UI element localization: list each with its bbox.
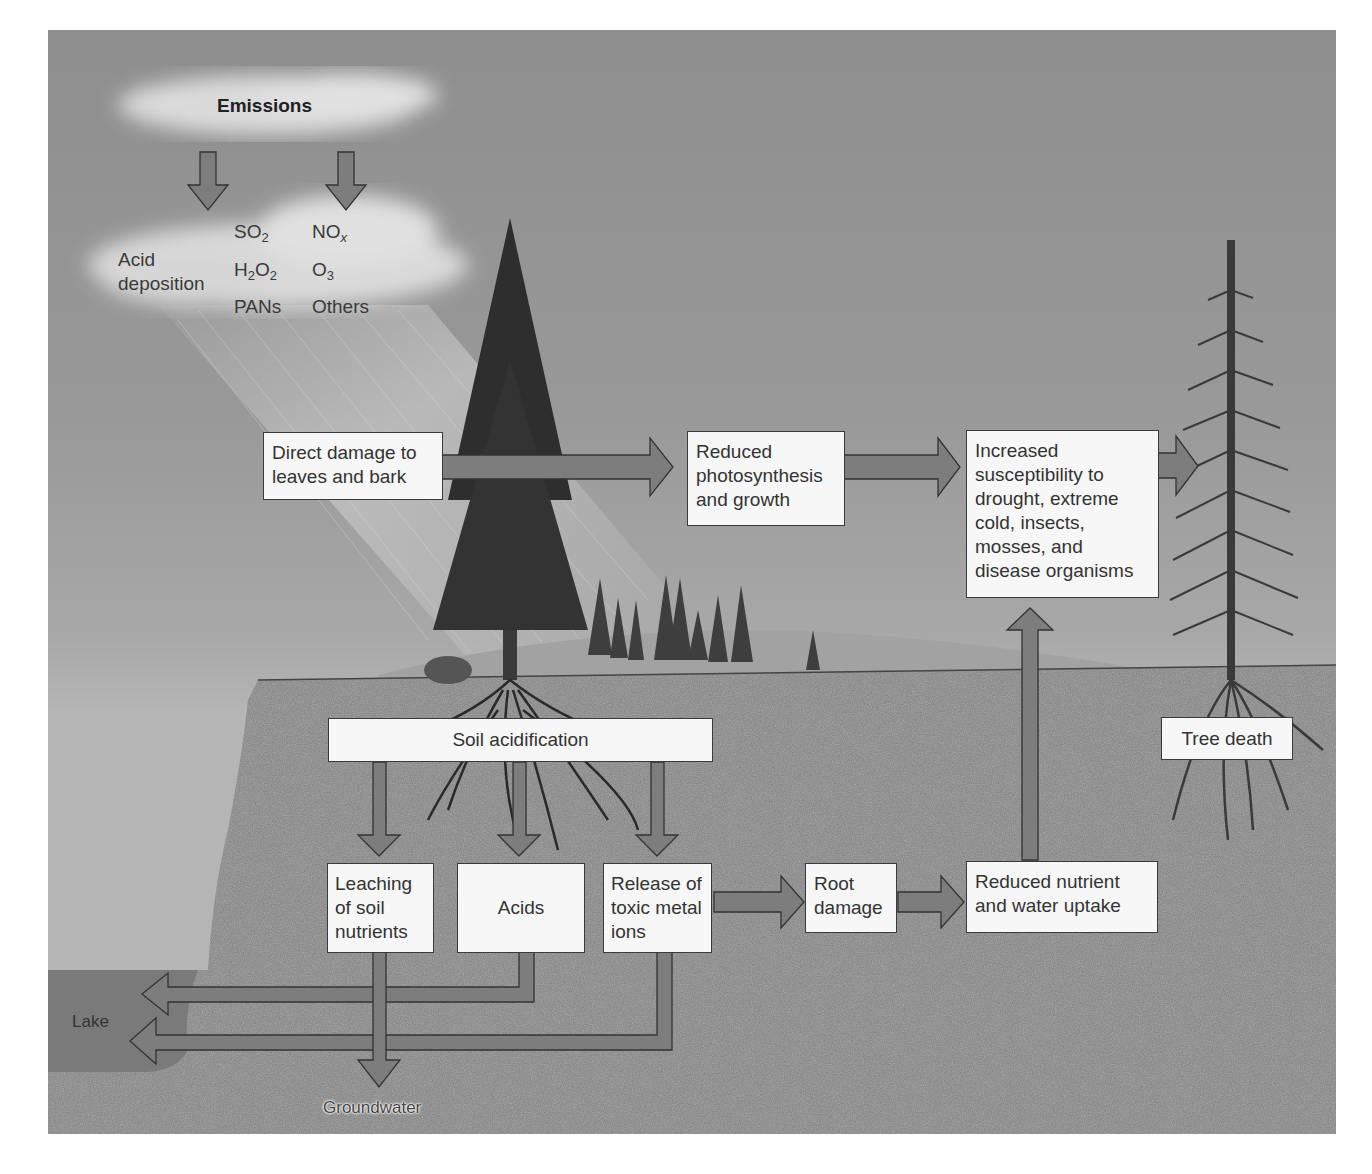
lake	[48, 970, 198, 1072]
groundwater-label: Groundwater	[323, 1096, 421, 1120]
arrow-photosynthesis-to-susceptibility	[844, 438, 960, 496]
acid-deposition-diagram: Emissions Acid deposition SO2 NOx H2O2 O…	[48, 30, 1336, 1134]
emissions-label: Emissions	[217, 94, 312, 118]
box-reduced-photosynthesis: Reduced photosynthesis and growth	[687, 431, 845, 526]
box-leaching: Leaching of soil nutrients	[327, 863, 434, 953]
box-increased-susceptibility: Increased susceptibility to drought, ext…	[966, 430, 1159, 598]
pollutant-o3: O3	[312, 258, 334, 288]
pollutant-others: Others	[312, 295, 369, 319]
lake-label: Lake	[72, 1010, 109, 1034]
box-soil-acidification: Soil acidification	[328, 718, 713, 762]
box-acids: Acids	[457, 863, 585, 953]
pollutant-pans: PANs	[234, 295, 281, 319]
pollutant-h2o2: H2O2	[234, 258, 277, 288]
box-root-damage: Root damage	[805, 863, 897, 933]
arrow-susceptibility-to-death	[1158, 436, 1198, 495]
pollutant-so2: SO2	[234, 220, 269, 250]
arrow-emissions-left	[188, 152, 228, 210]
pollutant-nox: NOx	[312, 220, 347, 250]
box-reduced-uptake: Reduced nutrient and water uptake	[966, 861, 1158, 933]
box-direct-damage: Direct damage to leaves and bark	[263, 432, 443, 500]
box-tree-death: Tree death	[1161, 717, 1293, 760]
acid-deposition-line1: Acid	[118, 248, 205, 272]
box-release-toxic: Release of toxic metal ions	[603, 863, 712, 953]
acid-deposition-label: Acid deposition	[118, 248, 205, 296]
acid-deposition-line2: deposition	[118, 272, 205, 296]
